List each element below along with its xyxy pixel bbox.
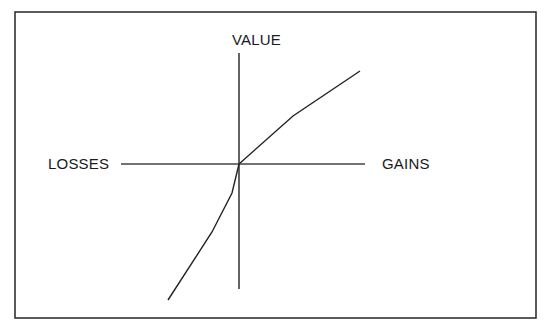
value-curve-gains bbox=[239, 71, 360, 164]
value-curve-losses bbox=[168, 164, 239, 300]
value-axis-label: VALUE bbox=[232, 31, 281, 48]
losses-axis-label: LOSSES bbox=[48, 155, 109, 172]
gains-axis-label: GAINS bbox=[382, 155, 430, 172]
